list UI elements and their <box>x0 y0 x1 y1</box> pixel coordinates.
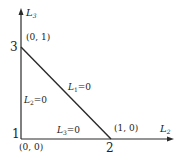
vertical-axis-label: L3 <box>26 8 36 19</box>
vertex-1-number: 1 <box>12 128 20 140</box>
vertex-1-coord: (0, 0) <box>19 143 43 152</box>
vertex-2-number: 2 <box>106 142 114 154</box>
edge-label-l2: L2=0 <box>24 96 47 106</box>
edge-label-l3: L3=0 <box>57 126 80 136</box>
vertex-3-coord: (0, 1) <box>26 33 50 42</box>
horizontal-axis-label: L2 <box>160 124 170 135</box>
diagram-canvas <box>0 0 183 160</box>
horizontal-axis-arrow-icon <box>167 137 174 142</box>
vertex-3-number: 3 <box>10 41 18 53</box>
edge-label-l1: L1=0 <box>68 83 91 93</box>
vertical-axis-arrow-icon <box>19 8 24 15</box>
vertex-2-coord: (1, 0) <box>114 124 138 133</box>
